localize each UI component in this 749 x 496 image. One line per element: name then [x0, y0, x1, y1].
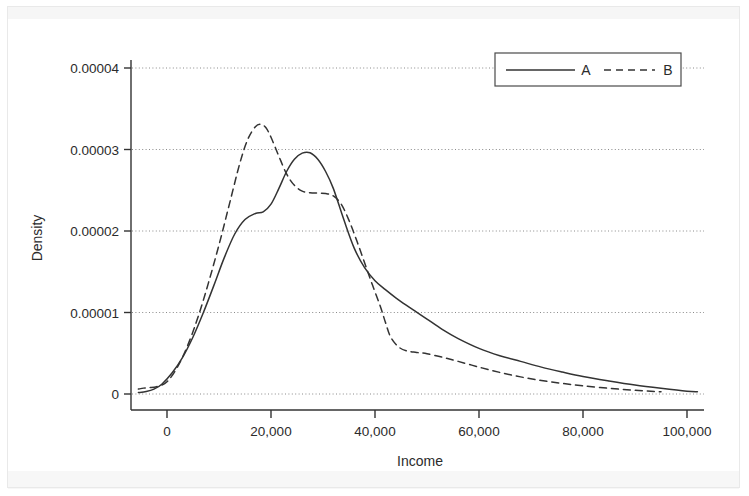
x-axis-tick-labels: 020,00040,00060,00080,000100,000 — [163, 424, 711, 439]
data-series-group — [138, 124, 697, 392]
y-axis-tick-labels: 00.000010.000020.000030.00004 — [70, 61, 119, 402]
x-axis-ticks — [167, 410, 687, 418]
figure-page: 00.000010.000020.000030.00004 020,00040,… — [0, 0, 749, 496]
gridlines — [132, 68, 704, 394]
y-axis-title: Density — [29, 215, 45, 262]
y-tick-label: 0.00003 — [70, 143, 119, 158]
legend-label-b: B — [663, 62, 672, 78]
x-tick-label: 100,000 — [663, 424, 712, 439]
density-chart: 00.000010.000020.000030.00004 020,00040,… — [0, 0, 749, 496]
x-tick-label: 80,000 — [562, 424, 603, 439]
x-tick-label: 20,000 — [250, 424, 291, 439]
x-tick-label: 60,000 — [458, 424, 499, 439]
y-tick-label: 0.00001 — [70, 306, 119, 321]
legend-label-a: A — [581, 62, 591, 78]
series-line-b — [138, 124, 661, 392]
series-line-a — [138, 152, 697, 392]
x-axis-title: Income — [397, 453, 443, 469]
legend[interactable]: A B — [495, 53, 681, 86]
y-axis-ticks — [124, 68, 131, 394]
y-tick-label: 0.00002 — [70, 224, 119, 239]
y-tick-label: 0.00004 — [70, 61, 119, 76]
x-tick-label: 40,000 — [354, 424, 395, 439]
x-tick-label: 0 — [163, 424, 171, 439]
y-tick-label: 0 — [111, 387, 119, 402]
